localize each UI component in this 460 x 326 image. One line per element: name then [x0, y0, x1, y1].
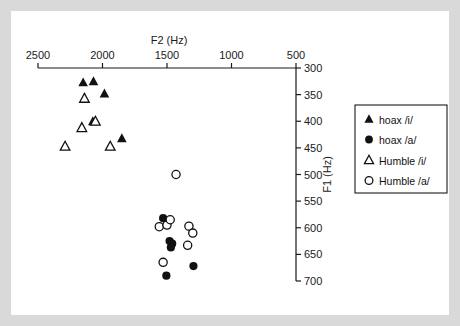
data-point: [89, 76, 99, 85]
data-point: [100, 89, 110, 98]
x-axis-title: F2 (Hz): [151, 34, 188, 46]
legend-marker-open-circle: [365, 177, 373, 185]
y-tick-label: 350: [304, 89, 322, 101]
data-point: [60, 141, 70, 150]
legend-label: Humble /a/: [379, 175, 430, 187]
y-tick-label: 500: [304, 169, 322, 181]
y-tick-label: 450: [304, 142, 322, 154]
data-points-group: [60, 76, 197, 279]
data-point: [159, 258, 167, 266]
series-humble-i-: [60, 93, 115, 150]
data-point: [172, 170, 180, 178]
y-axis-title: F1 (Hz): [321, 156, 333, 193]
y-tick-label: 650: [304, 248, 322, 260]
chart-legend: hoax /i/hoax /a/Humble /i/Humble /a/: [355, 105, 447, 193]
chart-canvas: 2500200015001000500300350400450500550600…: [0, 0, 460, 326]
y-tick-label: 550: [304, 195, 322, 207]
data-point: [78, 77, 88, 86]
axes-group: 2500200015001000500300350400450500550600…: [26, 34, 333, 287]
data-point: [189, 229, 197, 237]
data-point: [189, 262, 197, 270]
data-point: [77, 123, 87, 132]
x-tick-label: 2500: [26, 49, 50, 61]
x-tick-label: 1000: [219, 49, 243, 61]
scatter-plot: 2500200015001000500300350400450500550600…: [0, 0, 460, 326]
data-point: [80, 93, 90, 102]
legend-marker-filled-circle: [365, 136, 373, 144]
data-point: [117, 133, 127, 142]
legend-label: hoax /i/: [379, 114, 413, 126]
data-point: [166, 216, 174, 224]
data-point: [167, 243, 175, 251]
x-tick-label: 500: [287, 49, 305, 61]
y-tick-label: 600: [304, 222, 322, 234]
y-tick-label: 700: [304, 275, 322, 287]
legend-label: Humble /i/: [379, 155, 426, 167]
y-tick-label: 400: [304, 115, 322, 127]
y-tick-label: 300: [304, 62, 322, 74]
figure-container: 2500200015001000500300350400450500550600…: [0, 0, 460, 326]
data-point: [105, 141, 115, 150]
x-tick-label: 1500: [155, 49, 179, 61]
series-hoax-i-: [78, 76, 126, 142]
data-point: [155, 223, 163, 231]
data-point: [184, 241, 192, 249]
x-tick-label: 2000: [90, 49, 114, 61]
data-point: [162, 272, 170, 280]
legend-label: hoax /a/: [379, 134, 416, 146]
